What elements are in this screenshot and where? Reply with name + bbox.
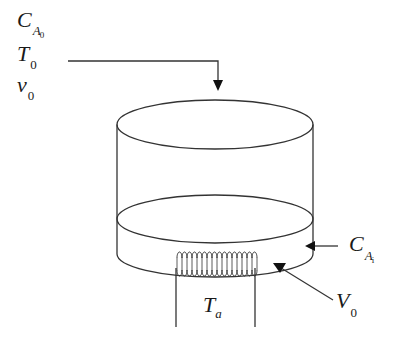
feed-arrow [68,61,218,82]
feed-flowrate-label: v0 [17,74,33,96]
liquid-level-ellipse [117,195,313,243]
tank-concentration-label: CAi [349,233,374,255]
feed-temperature-label: T0 [17,43,36,65]
volume-arrow [281,268,333,300]
heating-coil [177,252,257,276]
feed-concentration-label: CA0 [17,9,44,31]
tank-top-ellipse [117,100,313,149]
feed-arrowhead [213,80,223,91]
tank [117,100,313,277]
heater-temperature-label: Ta [203,294,222,316]
volume-arrowhead [273,263,286,273]
tank-volume-label: V0 [336,290,356,312]
concentration-arrowhead [305,241,315,251]
